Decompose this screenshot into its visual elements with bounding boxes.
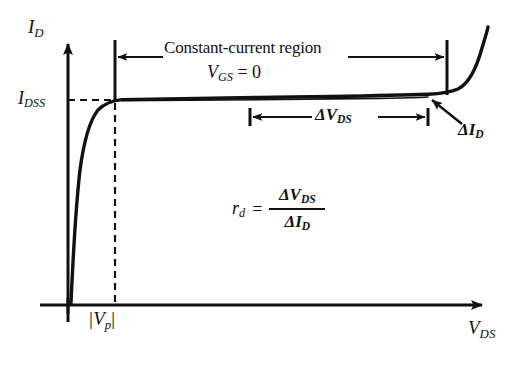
x-axis-label-sub: DS xyxy=(480,326,496,341)
vgs-label-main: V xyxy=(207,62,218,82)
drain-characteristic-curve xyxy=(71,27,488,303)
equation-numerator-sub: DS xyxy=(301,193,316,206)
vp-tick-label-close: | xyxy=(111,308,115,329)
y-axis-label-sub: D xyxy=(34,25,43,40)
equation-denominator: ΔID xyxy=(281,210,313,234)
equation-symbol-main: r xyxy=(232,198,239,218)
delta-vds-label: ΔVDS xyxy=(315,106,352,126)
vgs-label-sub: GS xyxy=(218,70,233,84)
x-axis-label: VDS xyxy=(468,318,495,341)
vp-tick-label: |Vp| xyxy=(88,309,115,332)
vgs-label-value: = 0 xyxy=(233,62,261,82)
delta-vds-label-main: ΔV xyxy=(315,105,337,124)
delta-id-label: ΔID xyxy=(458,121,484,141)
idss-tick-label: IDSS xyxy=(18,89,45,110)
equation-symbol-sub: d xyxy=(239,206,245,220)
x-axis-label-main: V xyxy=(468,317,480,338)
equation-numerator: ΔVDS xyxy=(276,185,319,208)
jfet-drain-characteristic-figure: ID VDS IDSS |Vp| Constant-current region… xyxy=(0,0,519,366)
equation-symbol: rd xyxy=(232,198,245,221)
y-axis-label: ID xyxy=(28,17,44,40)
idss-tick-label-sub: DSS xyxy=(24,96,45,110)
equation-denominator-sub: D xyxy=(302,220,310,233)
delta-id-label-main: ΔI xyxy=(458,120,475,139)
delta-vds-label-sub: DS xyxy=(337,113,352,126)
equation-fraction: ΔVDS ΔID xyxy=(269,185,325,234)
constant-current-region-label: Constant-current region xyxy=(164,39,321,56)
equation-denominator-main: ΔI xyxy=(284,212,301,231)
dynamic-resistance-equation: rd = ΔVDS ΔID xyxy=(232,185,325,234)
equation-numerator-main: ΔV xyxy=(279,185,301,204)
delta-id-label-sub: D xyxy=(475,128,483,141)
vgs-value-label: VGS = 0 xyxy=(207,63,261,84)
equation-equals-sign: = xyxy=(252,199,262,220)
vp-tick-label-open: |V xyxy=(88,308,105,329)
